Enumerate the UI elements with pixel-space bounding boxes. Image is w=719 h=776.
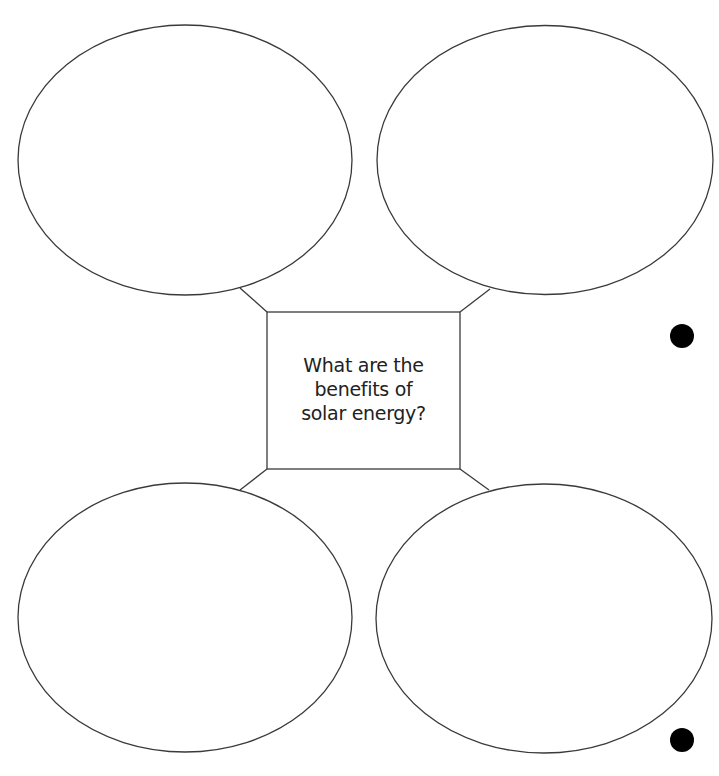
- connector-bottom-left: [240, 469, 267, 490]
- center-topic-question: What are the benefits of solar energy?: [284, 353, 444, 425]
- bubble-bottom-left[interactable]: [18, 483, 352, 752]
- binder-hole-top: [670, 324, 694, 348]
- connector-top-left: [240, 288, 267, 312]
- bubble-bottom-right[interactable]: [376, 484, 712, 753]
- bubble-top-left[interactable]: [18, 25, 352, 295]
- connector-bottom-right: [460, 469, 489, 490]
- center-topic-line-1: What are the: [284, 353, 444, 377]
- center-topic-line-2: benefits of: [284, 377, 444, 401]
- center-topic-box: What are the benefits of solar energy?: [267, 312, 460, 469]
- center-topic-line-3: solar energy?: [284, 401, 444, 425]
- binder-hole-bottom: [670, 728, 694, 752]
- connector-top-right: [460, 289, 490, 312]
- bubble-top-right[interactable]: [377, 26, 713, 295]
